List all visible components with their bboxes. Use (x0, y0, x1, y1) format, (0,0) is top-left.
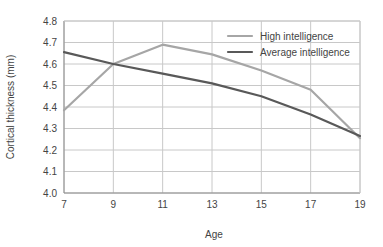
x-tick-label: 15 (256, 199, 268, 210)
y-tick-label: 4.5 (43, 80, 57, 91)
y-tick-label: 4.0 (43, 188, 57, 199)
y-axis-title: Cortical thickness (mm) (5, 55, 16, 159)
y-tick-label: 4.1 (43, 166, 57, 177)
x-tick-label: 7 (61, 199, 67, 210)
y-tick-label: 4.2 (43, 145, 57, 156)
y-tick-label: 4.7 (43, 37, 57, 48)
legend-label-average-intelligence: Average intelligence (260, 47, 350, 58)
y-axis-tick-labels: 4.04.14.24.34.44.54.64.74.8 (43, 16, 57, 199)
x-tick-label: 17 (305, 199, 317, 210)
chart-container: 791113151719 4.04.14.24.34.44.54.64.74.8… (0, 0, 383, 247)
x-axis-title: Age (205, 229, 223, 240)
x-tick-label: 9 (111, 199, 117, 210)
legend-label-high-intelligence: High intelligence (260, 31, 334, 42)
y-tick-label: 4.8 (43, 16, 57, 27)
y-tick-label: 4.3 (43, 123, 57, 134)
x-tick-label: 13 (206, 199, 218, 210)
cortical-thickness-line-chart: 791113151719 4.04.14.24.34.44.54.64.74.8… (0, 0, 383, 247)
x-tick-label: 19 (354, 199, 366, 210)
x-tick-label: 11 (157, 199, 168, 210)
y-tick-label: 4.6 (43, 59, 57, 70)
y-tick-label: 4.4 (43, 102, 57, 113)
